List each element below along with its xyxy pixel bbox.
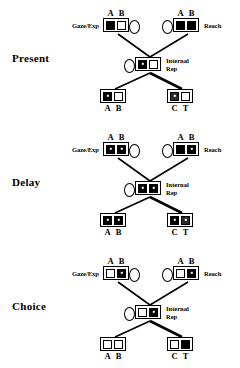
cell-labels-bottom-output-ct: CT: [168, 104, 192, 113]
cell-reach-1: [187, 269, 196, 278]
node-box-gaze-exp: ABGaze/Exp: [103, 266, 129, 280]
connector-line-1: [150, 282, 188, 305]
node-box-internal-rep: Internal Rep: [135, 181, 161, 195]
connector-line-3: [150, 73, 182, 89]
panel-delay: DelayABGaze/ExpABReachInternal RepABCT: [0, 124, 240, 242]
cell-label: B: [187, 133, 196, 142]
panel-title: Delay: [12, 176, 40, 188]
cell-label: B: [117, 257, 126, 266]
side-label-reach: Reach: [204, 22, 221, 30]
cell-label: A: [103, 104, 112, 113]
ellipse-marker-reach: [162, 144, 173, 158]
side-label-internal-rep: Internal Rep: [166, 181, 196, 196]
cell-labels-top-gaze-exp: AB: [104, 257, 128, 266]
cell-labels-bottom-output-ab: AB: [101, 228, 125, 237]
ellipse-marker-internal-rep: [124, 59, 135, 73]
node-box-reach: ABReach: [173, 266, 199, 280]
cell-gaze-exp-0: [106, 269, 115, 278]
ellipse-marker-reach: [162, 20, 173, 34]
cell-gaze-exp-0: [106, 145, 115, 154]
connector-line-1: [150, 158, 188, 181]
cell-output-ab-1: [114, 92, 123, 101]
cell-label: C: [170, 104, 179, 113]
cell-labels-top-gaze-exp: AB: [104, 9, 128, 18]
cell-label: A: [176, 9, 185, 18]
ellipse-marker-internal-rep: [124, 307, 135, 321]
cell-output-ab-0: [103, 216, 112, 225]
cell-labels-top-reach: AB: [174, 257, 198, 266]
side-label-gaze-exp: Gaze/Exp: [72, 22, 99, 30]
panel-title: Choice: [12, 300, 46, 312]
node-box-gaze-exp: ABGaze/Exp: [103, 142, 129, 156]
cell-label: B: [114, 104, 123, 113]
side-label-reach: Reach: [204, 270, 221, 278]
side-label-reach: Reach: [204, 146, 221, 154]
node-gaze-exp: ABGaze/Exp: [103, 266, 129, 280]
cell-output-ab-0: [103, 92, 112, 101]
cell-label: A: [103, 228, 112, 237]
node-box-reach: ABReach: [173, 18, 199, 32]
cell-output-ct-0: [170, 92, 179, 101]
cell-labels-top-reach: AB: [174, 133, 198, 142]
cell-gaze-exp-1: [117, 145, 126, 154]
node-box-internal-rep: Internal Rep: [135, 305, 161, 319]
cell-internal-rep-1: [149, 308, 158, 317]
node-output-ct: CT: [167, 337, 193, 351]
node-box-output-ct: CT: [167, 89, 193, 103]
connector-line-3: [150, 321, 182, 337]
cell-gaze-exp-1: [117, 269, 126, 278]
cell-label: A: [176, 133, 185, 142]
cell-labels-bottom-output-ab: AB: [101, 352, 125, 361]
cell-internal-rep-0: [138, 60, 147, 69]
panel-present: PresentABGaze/ExpABReachInternal RepABCT: [0, 0, 240, 118]
cell-label: B: [114, 352, 123, 361]
cell-label: B: [117, 133, 126, 142]
node-box-output-ct: CT: [167, 213, 193, 227]
node-box-reach: ABReach: [173, 142, 199, 156]
node-gaze-exp: ABGaze/Exp: [103, 18, 129, 32]
cell-label: A: [106, 257, 115, 266]
connector-line-2: [115, 197, 150, 213]
node-box-gaze-exp: ABGaze/Exp: [103, 18, 129, 32]
connector-line-2: [115, 73, 150, 89]
node-output-ct: CT: [167, 213, 193, 227]
node-gaze-exp: ABGaze/Exp: [103, 142, 129, 156]
cell-label: B: [114, 228, 123, 237]
cell-internal-rep-0: [138, 308, 147, 317]
side-label-internal-rep: Internal Rep: [166, 57, 196, 72]
ellipse-marker-gaze-exp: [129, 20, 140, 34]
cell-output-ct-1: [181, 92, 190, 101]
cell-internal-rep-0: [138, 184, 147, 193]
cell-label: T: [181, 352, 190, 361]
cell-reach-1: [187, 145, 196, 154]
cell-output-ct-0: [170, 340, 179, 349]
cell-output-ct-0: [170, 216, 179, 225]
connector-line-1: [150, 34, 188, 57]
node-internal-rep: Internal Rep: [135, 305, 161, 319]
side-label-gaze-exp: Gaze/Exp: [72, 270, 99, 278]
cell-label: A: [106, 133, 115, 142]
cell-labels-bottom-output-ct: CT: [168, 228, 192, 237]
cell-reach-0: [176, 21, 185, 30]
connector-line-0: [118, 34, 150, 57]
cell-label: T: [181, 104, 190, 113]
side-label-internal-rep: Internal Rep: [166, 305, 196, 320]
panel-title: Present: [12, 52, 49, 64]
node-output-ab: AB: [100, 337, 126, 351]
cell-label: A: [106, 9, 115, 18]
cell-labels-bottom-output-ab: AB: [101, 104, 125, 113]
cell-internal-rep-1: [149, 60, 158, 69]
node-output-ct: CT: [167, 89, 193, 103]
connector-line-2: [115, 321, 150, 337]
ellipse-marker-internal-rep: [124, 183, 135, 197]
connector-line-3: [150, 197, 182, 213]
node-reach: ABReach: [173, 142, 199, 156]
cell-reach-0: [176, 269, 185, 278]
node-reach: ABReach: [173, 18, 199, 32]
cell-label: A: [176, 257, 185, 266]
cell-output-ab-1: [114, 216, 123, 225]
node-box-output-ct: CT: [167, 337, 193, 351]
panel-choice: ChoiceABGaze/ExpABReachInternal RepABCT: [0, 248, 240, 366]
cell-reach-0: [176, 145, 185, 154]
ellipse-marker-reach: [162, 268, 173, 282]
